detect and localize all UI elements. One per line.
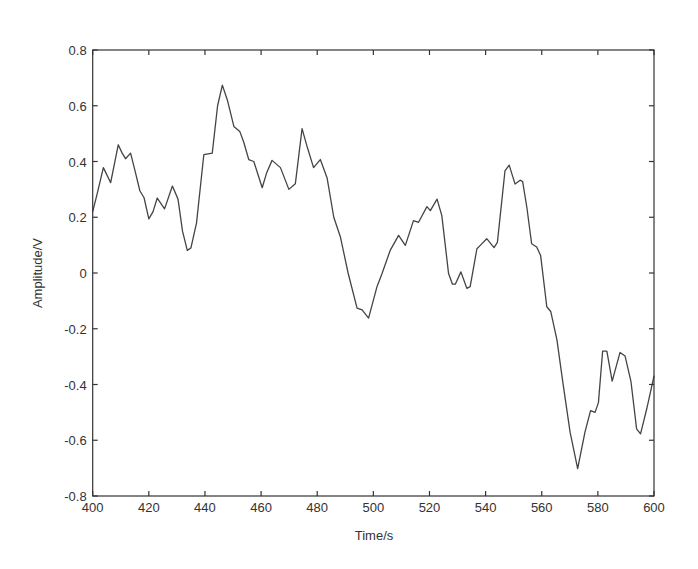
y-axis-ticks: -0.8-0.6-0.4-0.200.20.40.60.8 bbox=[64, 43, 654, 504]
x-tick-label: 520 bbox=[419, 500, 441, 515]
x-tick-label: 600 bbox=[643, 500, 665, 515]
x-tick-label: 540 bbox=[475, 500, 497, 515]
x-tick-label: 560 bbox=[531, 500, 553, 515]
signal-line bbox=[93, 85, 654, 469]
y-tick-label: -0.6 bbox=[64, 433, 86, 448]
x-tick-label: 480 bbox=[306, 500, 328, 515]
y-tick-label: -0.2 bbox=[64, 322, 86, 337]
y-tick-label: -0.4 bbox=[64, 378, 86, 393]
y-tick-label: 0 bbox=[79, 266, 86, 281]
y-tick-label: 0.4 bbox=[69, 155, 87, 170]
y-tick-label: -0.8 bbox=[64, 489, 86, 504]
y-tick-label: 0.8 bbox=[69, 43, 87, 58]
line-chart: 400420440460480500520540560580600 -0.8-0… bbox=[0, 0, 698, 569]
x-tick-label: 460 bbox=[250, 500, 272, 515]
x-tick-label: 440 bbox=[194, 500, 216, 515]
x-tick-label: 500 bbox=[362, 500, 384, 515]
y-tick-label: 0.6 bbox=[69, 99, 87, 114]
x-axis-label: Time/s bbox=[355, 528, 394, 543]
plot-area: 400420440460480500520540560580600 -0.8-0… bbox=[64, 43, 665, 515]
y-tick-label: 0.2 bbox=[69, 210, 87, 225]
x-axis-ticks: 400420440460480500520540560580600 bbox=[82, 50, 665, 515]
y-axis-label: Amplitude/V bbox=[30, 238, 45, 308]
x-tick-label: 580 bbox=[587, 500, 609, 515]
x-tick-label: 420 bbox=[138, 500, 160, 515]
